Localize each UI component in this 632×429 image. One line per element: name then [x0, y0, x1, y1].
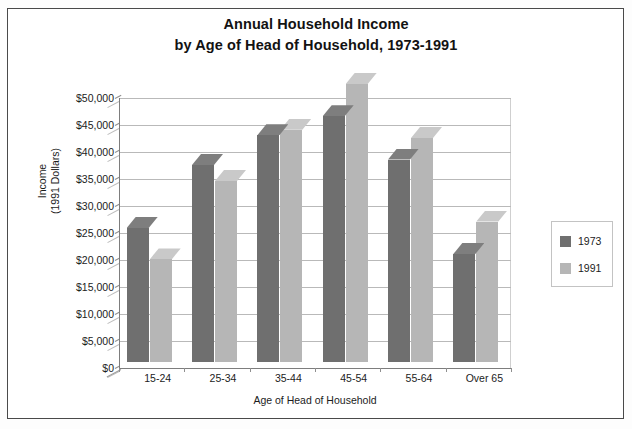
x-tick-mark	[511, 368, 512, 372]
bar-face	[388, 160, 410, 363]
legend-label-1991: 1991	[578, 262, 601, 274]
chart-title-line-1: Annual Household Income	[0, 14, 632, 35]
x-tick-label: 35-44	[251, 372, 325, 384]
bar-1973-Over 65[interactable]	[453, 254, 475, 362]
legend-swatch-1991	[560, 263, 571, 274]
x-axis-title: Age of Head of Household	[119, 394, 511, 406]
bar-face	[346, 84, 368, 362]
bar-1973-25-34[interactable]	[192, 165, 214, 362]
bar-1991-55-64[interactable]	[411, 138, 433, 362]
y-tick-label: $25,000	[28, 227, 114, 239]
gridline	[119, 260, 511, 261]
x-tick-label: Over 65	[447, 372, 521, 384]
bar-face	[453, 254, 475, 362]
chart-title: Annual Household Income by Age of Head o…	[0, 14, 632, 56]
chart-figure: Annual Household Income by Age of Head o…	[0, 0, 632, 429]
chart-title-line-2: by Age of Head of Household, 1973-1991	[0, 35, 632, 56]
x-tick-label: 25-34	[186, 372, 260, 384]
gridline	[119, 287, 511, 288]
x-tick-label: 55-64	[382, 372, 456, 384]
y-tick-label: $40,000	[28, 146, 114, 158]
x-tick-label: 45-54	[317, 372, 391, 384]
x-tick-mark	[119, 368, 120, 372]
legend-item-1991[interactable]: 1991	[560, 262, 601, 274]
bar-face	[150, 259, 172, 362]
legend-item-1973[interactable]: 1973	[560, 235, 601, 247]
x-axis-tick-labels: 15-2425-3435-4445-5455-64Over 65	[119, 372, 511, 392]
y-tick-label: $50,000	[28, 92, 114, 104]
x-tick-mark	[380, 368, 381, 372]
bar-1991-25-34[interactable]	[215, 181, 237, 362]
y-tick-label: $10,000	[28, 308, 114, 320]
chart-legend: 1973 1991	[551, 221, 613, 287]
bar-face	[215, 181, 237, 362]
x-tick-mark	[315, 368, 316, 372]
gridline	[119, 206, 511, 207]
y-axis-tick-labels: $0$5,000$10,000$15,000$20,000$25,000$30,…	[14, 92, 114, 368]
bar-1991-Over 65[interactable]	[476, 222, 498, 362]
y-axis-line	[119, 98, 120, 369]
x-tick-mark	[184, 368, 185, 372]
y-tick-label: $30,000	[28, 200, 114, 212]
gridline	[119, 179, 511, 180]
gridline	[119, 152, 511, 153]
gridline	[119, 233, 511, 234]
y-tick-label: $35,000	[28, 173, 114, 185]
gridline	[119, 125, 511, 126]
bar-face	[257, 135, 279, 362]
bar-1991-45-54[interactable]	[346, 84, 368, 362]
bar-face	[411, 138, 433, 362]
x-tick-mark	[250, 368, 251, 372]
bar-1973-55-64[interactable]	[388, 160, 410, 363]
y-tick-label: $20,000	[28, 254, 114, 266]
gridline	[119, 314, 511, 315]
bar-1973-15-24[interactable]	[127, 228, 149, 362]
bar-face	[476, 222, 498, 362]
y-tick-label: $15,000	[28, 281, 114, 293]
bar-face	[192, 165, 214, 362]
plot-area	[119, 92, 511, 368]
gridline	[119, 98, 511, 99]
bar-1973-35-44[interactable]	[257, 135, 279, 362]
bar-1973-45-54[interactable]	[323, 116, 345, 362]
gridline	[119, 341, 511, 342]
legend-swatch-1973	[560, 236, 571, 247]
legend-label-1973: 1973	[578, 235, 601, 247]
bar-1991-35-44[interactable]	[280, 130, 302, 362]
x-tick-mark	[446, 368, 447, 372]
x-tick-label: 15-24	[121, 372, 195, 384]
y-tick-label: $45,000	[28, 119, 114, 131]
bar-face	[280, 130, 302, 362]
y-tick-label: $5,000	[28, 335, 114, 347]
bar-face	[323, 116, 345, 362]
bar-face	[127, 228, 149, 362]
bar-1991-15-24[interactable]	[150, 259, 172, 362]
y-tick-label: $0	[28, 362, 114, 374]
